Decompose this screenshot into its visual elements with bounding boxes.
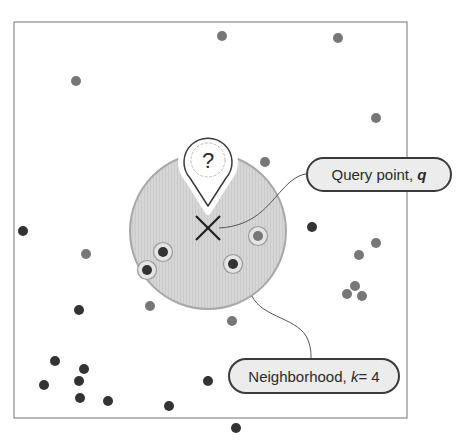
data-point — [333, 33, 343, 43]
data-point — [371, 238, 381, 248]
data-point — [79, 364, 89, 374]
data-point — [354, 250, 364, 260]
query-label-variable: q — [417, 166, 426, 183]
query-point-label: Query point, q — [306, 157, 452, 192]
data-point — [18, 226, 28, 236]
data-point — [50, 356, 60, 366]
data-point — [71, 76, 81, 86]
neighbor-point — [253, 231, 263, 241]
data-point — [227, 316, 237, 326]
neighborhood-label: Neighborhood, k = 4 — [228, 358, 400, 394]
data-point — [75, 393, 85, 403]
data-point — [103, 396, 113, 406]
neighbor-point — [142, 265, 152, 275]
data-point — [164, 401, 174, 411]
data-point — [342, 289, 352, 299]
data-point — [217, 31, 227, 41]
data-point — [231, 423, 241, 433]
data-point — [74, 376, 84, 386]
data-point — [39, 380, 49, 390]
data-point — [357, 291, 367, 301]
data-point — [74, 305, 84, 315]
data-point — [350, 281, 360, 291]
data-point — [81, 249, 91, 259]
neighbor-point — [158, 247, 168, 257]
data-point — [203, 376, 213, 386]
neighborhood-label-text: Neighborhood, — [248, 368, 346, 385]
data-point — [371, 113, 381, 123]
data-point — [307, 222, 317, 232]
neighborhood-label-suffix: = 4 — [358, 368, 379, 385]
pin-question-glyph: ? — [202, 148, 214, 173]
neighborhood-label-variable: k — [351, 368, 359, 385]
query-label-text: Query point, — [331, 166, 413, 183]
data-point — [145, 301, 155, 311]
neighbor-point — [228, 259, 238, 269]
data-point — [260, 157, 270, 167]
